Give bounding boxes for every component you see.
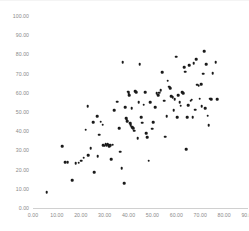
data-point [165,115,168,118]
data-point [158,91,161,94]
data-point [96,155,99,158]
data-point [80,159,83,162]
y-tick-label: 10.00 [3,186,29,192]
x-tick-label: 40.00 [116,212,142,218]
data-point [204,107,207,110]
data-point [161,71,164,74]
y-tick-label: 0.00 [3,205,29,211]
data-point [140,116,143,119]
data-point [110,158,113,161]
y-tick-label: 20.00 [3,167,29,173]
data-point [133,129,136,132]
data-point [137,101,140,104]
data-point [192,62,195,65]
plot-area [33,16,248,208]
data-point [166,79,169,82]
data-point [122,61,125,64]
y-tick-label: 40.00 [3,128,29,134]
chart-top-border [0,0,249,1]
data-point [96,115,99,118]
data-point [154,106,157,109]
y-tick-label: 50.00 [3,109,29,115]
data-point [142,103,145,106]
data-point [98,133,101,136]
data-point [176,116,179,119]
data-point [93,171,96,174]
data-point [90,147,93,150]
data-point [157,94,160,97]
data-point [175,55,178,58]
data-point [203,50,206,53]
data-point [128,94,131,97]
data-point [194,108,197,111]
x-tick-label: 80.00 [211,212,237,218]
data-point [119,150,122,153]
x-tick-label: 90.00 [235,212,249,218]
data-point [216,98,219,101]
data-point [206,114,209,117]
data-point [200,83,203,86]
data-point [198,97,201,100]
data-point [172,109,175,112]
data-point [182,92,185,95]
data-point [123,182,126,185]
data-point [208,124,211,127]
data-point [163,99,166,102]
data-point [183,66,186,69]
scatter-chart: 0.0010.0020.0030.0040.0050.0060.0070.008… [0,0,249,231]
x-tick-label: 60.00 [163,212,189,218]
data-point [201,105,204,108]
x-tick-label: 30.00 [92,212,118,218]
data-point [146,136,149,139]
data-point [84,128,87,131]
data-point [118,127,121,130]
data-point [210,98,213,101]
data-point [45,191,48,194]
data-point [187,104,190,107]
data-point [111,144,114,147]
data-point [66,161,69,164]
x-tick-label: 70.00 [187,212,213,218]
data-point [147,159,150,162]
data-point [186,116,189,119]
y-tick-label: 80.00 [3,51,29,57]
y-tick-label: 90.00 [3,32,29,38]
data-point [152,121,155,124]
data-point [135,91,138,94]
data-point [174,98,177,101]
data-point [149,101,152,104]
data-point [145,132,148,135]
x-tick-label: 10.00 [44,212,70,218]
x-tick-label: 50.00 [139,212,165,218]
y-tick-label: 70.00 [3,71,29,77]
data-point [137,137,140,140]
data-point [151,127,154,130]
data-point [144,91,147,94]
data-point [121,167,124,170]
data-point [71,179,74,182]
data-point [101,124,104,127]
data-point [113,109,116,112]
data-point [83,157,86,160]
data-point [178,101,181,104]
y-tick-label: 100.00 [3,13,29,19]
data-point [164,135,167,138]
data-point [138,63,141,66]
data-point [202,72,205,75]
data-point [160,89,163,92]
data-point [124,106,127,109]
y-tick-label: 60.00 [3,90,29,96]
data-point [184,70,187,73]
data-point [192,116,195,119]
data-point [177,94,180,97]
data-point [180,105,183,108]
data-point [214,61,217,64]
data-point [87,154,90,157]
x-tick-label: 0.00 [20,212,46,218]
data-point [205,63,208,66]
data-point [86,105,89,108]
data-point [185,148,188,151]
x-axis-line [33,208,248,209]
data-point [188,64,191,67]
x-tick-label: 20.00 [68,212,94,218]
